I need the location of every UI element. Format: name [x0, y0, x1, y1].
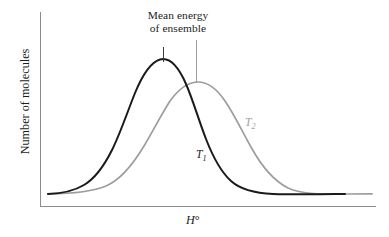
series-label-t2-subscript: 2 — [251, 122, 255, 131]
annotation-line-2: of ensemble — [0, 22, 389, 35]
series-label-t1: T1 — [196, 148, 207, 163]
series-label-t1-subscript: 1 — [202, 154, 206, 163]
annotation-line-1: Mean energy — [0, 9, 389, 22]
distribution-chart-figure: Mean energy of ensemble Number of molecu… — [0, 0, 389, 237]
degree-icon: ° — [195, 213, 200, 227]
series-label-t2: T2 — [245, 116, 256, 131]
y-axis-label: Number of molecules — [18, 22, 33, 182]
curve-t2 — [48, 82, 372, 194]
mean-energy-annotation: Mean energy of ensemble — [0, 9, 389, 36]
x-axis-label: H° — [186, 213, 200, 228]
x-axis-label-base: H — [186, 213, 195, 227]
